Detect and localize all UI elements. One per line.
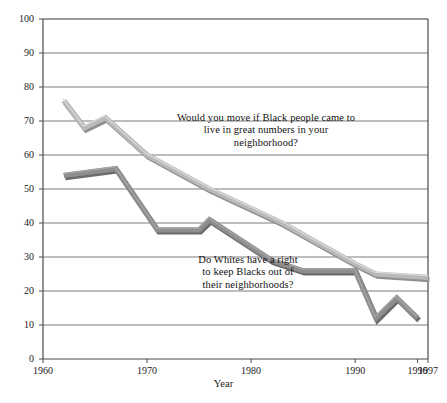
x-tick-label-1990: 1990 (338, 365, 372, 376)
y-tick-label-40: 40 (6, 217, 34, 228)
annotation-lower-series: Do Whites have a right to keep Blacks ou… (148, 254, 348, 291)
y-tick-label-30: 30 (6, 251, 34, 262)
x-axis-title: Year (0, 378, 447, 389)
line-chart-canvas (0, 0, 447, 403)
y-tick-label-90: 90 (6, 47, 34, 58)
y-tick-label-60: 60 (6, 149, 34, 160)
x-tick-label-1997: 1997 (411, 365, 445, 376)
y-tick-label-100: 100 (6, 13, 34, 24)
annotation-upper-series: Would you move if Black people came to l… (141, 112, 391, 149)
y-tick-label-50: 50 (6, 183, 34, 194)
y-tick-label-0: 0 (6, 353, 34, 364)
x-tick-label-1980: 1980 (234, 365, 268, 376)
y-tick-label-10: 10 (6, 319, 34, 330)
chart-container: Would you move if Black people came to l… (0, 0, 447, 403)
y-tick-label-80: 80 (6, 81, 34, 92)
y-tick-label-20: 20 (6, 285, 34, 296)
y-tick-label-70: 70 (6, 115, 34, 126)
x-tick-label-1970: 1970 (130, 365, 164, 376)
series-line-lower (63, 167, 419, 321)
x-tick-label-1960: 1960 (26, 365, 60, 376)
